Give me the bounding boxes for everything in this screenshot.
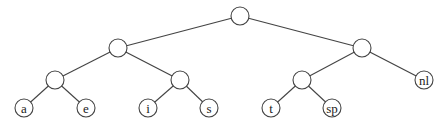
edge-n2-nl	[362, 48, 424, 80]
edge-n1-n3	[55, 48, 118, 80]
node-label: i	[146, 101, 150, 116]
tree-node-a: a	[15, 99, 33, 117]
tree-node-nl: nl	[415, 71, 433, 89]
node-circle	[46, 71, 64, 89]
edge-root-n2	[240, 16, 362, 48]
node-label: s	[206, 101, 211, 116]
tree-node-n4	[171, 71, 189, 89]
node-label: e	[83, 101, 89, 116]
node-circle	[231, 7, 249, 25]
tree-node-n2	[353, 39, 371, 57]
edge-n1-n4	[118, 48, 180, 80]
edges	[24, 16, 424, 108]
node-label: t	[269, 101, 273, 116]
tree-node-s: s	[200, 99, 218, 117]
node-circle	[293, 71, 311, 89]
tree-node-n5	[293, 71, 311, 89]
edge-n2-n5	[302, 48, 362, 80]
tree-node-root	[231, 7, 249, 25]
tree-node-i: i	[139, 99, 157, 117]
node-label: nl	[419, 73, 430, 88]
node-circle	[353, 39, 371, 57]
tree-node-t: t	[262, 99, 280, 117]
node-label: sp	[326, 101, 338, 116]
node-circle	[171, 71, 189, 89]
tree-node-n3	[46, 71, 64, 89]
tree-node-e: e	[77, 99, 95, 117]
tree-node-sp: sp	[323, 99, 341, 117]
tree-node-n1	[109, 39, 127, 57]
node-circle	[109, 39, 127, 57]
node-label: a	[21, 101, 27, 116]
tree-diagram: nlaeistsp	[0, 0, 444, 129]
edge-root-n1	[118, 16, 240, 48]
